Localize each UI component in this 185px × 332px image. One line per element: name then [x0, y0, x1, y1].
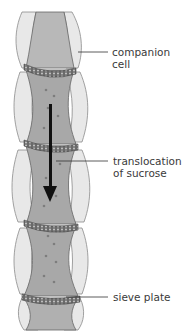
label-sieve-plate: sieve plate: [113, 291, 170, 303]
label-translocation: translocation of sucrose: [113, 155, 182, 179]
label-companion-cell: companion cell: [112, 46, 170, 70]
